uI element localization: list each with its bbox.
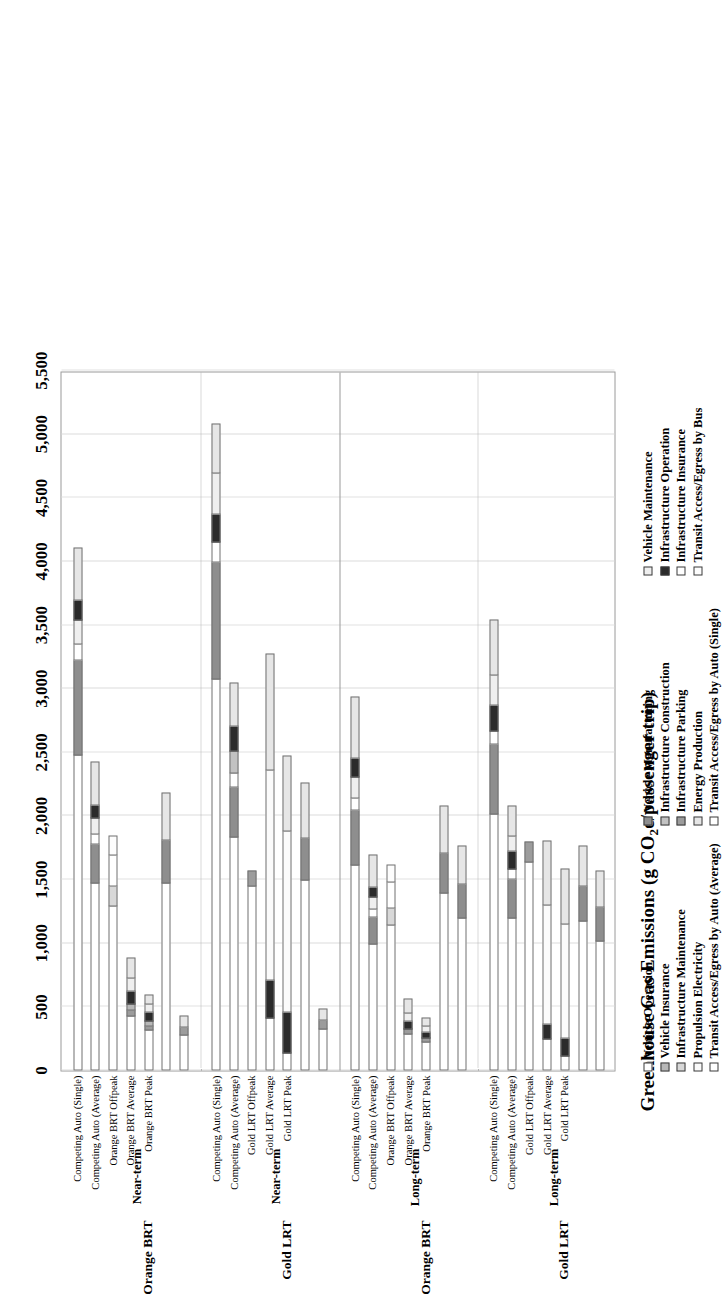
bar xyxy=(300,780,309,1070)
legend-item[interactable]: Vehicle Maintenance xyxy=(640,371,655,575)
bar-segment xyxy=(247,885,256,1070)
gridline xyxy=(61,814,614,815)
x-tick-label: 5,000 xyxy=(31,415,51,453)
legend-swatch-icon xyxy=(693,1062,702,1071)
bar xyxy=(403,994,412,1070)
bar-segment xyxy=(457,846,466,884)
bar-segment xyxy=(161,882,170,1070)
category-label: Orange BRT Peak xyxy=(420,1075,431,1151)
bar-segment xyxy=(542,1023,551,1040)
legend-label: Transit Access/Egress by Auto (Single) xyxy=(706,608,721,812)
legend-item[interactable]: Vehicle Operation xyxy=(640,825,655,1071)
bar xyxy=(144,989,153,1070)
bar-segment xyxy=(90,761,99,806)
legend-label: Infrastructure Insurance xyxy=(673,429,688,562)
bar xyxy=(560,865,569,1070)
bar-segment xyxy=(489,704,498,731)
bar-segment xyxy=(560,868,569,924)
legend-label: Vehicle Insurance xyxy=(657,963,672,1058)
legend-item[interactable]: Transit Access/Egress by Bus xyxy=(690,371,705,575)
bar xyxy=(421,1013,430,1070)
bar xyxy=(282,752,291,1070)
bar-segment xyxy=(211,541,220,561)
x-tick-label: 0 xyxy=(31,1066,51,1075)
bar-segment xyxy=(595,906,604,942)
bar-segment xyxy=(282,755,291,831)
category-label: Orange BRT Offpeak xyxy=(385,1075,396,1165)
bar-segment xyxy=(560,1055,569,1070)
legend-swatch-icon xyxy=(660,1062,669,1071)
bar xyxy=(161,790,170,1070)
group-scenario-label: Gold LRT xyxy=(278,1220,294,1279)
category-label: Gold LRT Peak xyxy=(559,1075,570,1141)
bar-segment xyxy=(386,907,395,925)
x-tick-label: 2,500 xyxy=(31,733,51,771)
legend-label: Energy Production xyxy=(690,710,705,812)
bar-segment xyxy=(318,1019,327,1029)
legend-item[interactable]: Transit Access/Egress by Auto (Single) xyxy=(706,575,721,825)
bar-segment xyxy=(403,998,412,1013)
bar-segment xyxy=(524,841,533,863)
bar-segment xyxy=(386,924,395,1070)
x-tick-label: 4,500 xyxy=(31,478,51,516)
bar-segment xyxy=(507,868,516,878)
legend-item[interactable]: Infrastructure Maintenance xyxy=(673,825,688,1071)
bar-segment xyxy=(403,1033,412,1070)
bar-segment xyxy=(350,777,359,799)
category-label: Gold LRT Average xyxy=(264,1075,275,1154)
bar-segment xyxy=(350,757,359,777)
legend-column: Vehicle OperationVehicle InsuranceInfras… xyxy=(640,825,720,1071)
legend-label: Vehicle Maintenance xyxy=(640,451,655,562)
bar-segment xyxy=(126,990,135,1004)
bar-segment xyxy=(421,1041,430,1070)
bar-segment xyxy=(229,725,238,750)
legend-swatch-icon xyxy=(643,816,652,825)
bar-segment xyxy=(368,916,377,944)
bar-segment xyxy=(108,885,117,905)
bar-segment xyxy=(578,920,587,1070)
bar-segment xyxy=(211,678,220,1070)
x-tick-label: 4,000 xyxy=(31,542,51,580)
bar-segment xyxy=(73,599,82,619)
x-tick-label: 500 xyxy=(31,994,51,1020)
bar-segment xyxy=(73,547,82,600)
bar-segment xyxy=(507,805,516,836)
bar-segment xyxy=(211,472,220,514)
bar-segment xyxy=(386,881,395,908)
bar-segment xyxy=(229,682,238,727)
x-tick-label: 3,500 xyxy=(31,605,51,643)
bar xyxy=(595,868,604,1070)
legend-label: Transit Access/Egress by Bus xyxy=(690,407,705,562)
legend-item[interactable]: Vehicle Insurance xyxy=(657,825,672,1071)
legend-item[interactable]: Infrastructure Insurance xyxy=(673,371,688,575)
bar-segment xyxy=(73,619,82,644)
bar-segment xyxy=(144,1011,153,1022)
legend-swatch-icon xyxy=(643,1062,652,1071)
legend-item[interactable]: Energy Production xyxy=(690,575,705,825)
bar-segment xyxy=(368,896,377,909)
legend-label: Transit Access/Egress by Auto (Average) xyxy=(706,843,721,1058)
category-label: Gold LRT Offpeak xyxy=(246,1075,257,1154)
bar-segment xyxy=(507,917,516,1070)
category-label: Competing Auto (Single) xyxy=(349,1075,360,1181)
legend-item[interactable]: Infrastructure Parking xyxy=(673,575,688,825)
bar-segment xyxy=(247,870,256,887)
bar-segment xyxy=(350,797,359,810)
bar-segment xyxy=(489,743,498,814)
bar-segment xyxy=(229,786,238,837)
legend-label: Infrastructure Maintenance xyxy=(673,909,688,1058)
legend-item[interactable]: Infrastructure Operation xyxy=(657,371,672,575)
bar-segment xyxy=(595,940,604,1070)
group-scenario-label: Orange BRT xyxy=(417,1220,433,1294)
legend-label: Infrastructure Operation xyxy=(657,427,672,562)
category-label: Competing Auto (Single) xyxy=(210,1075,221,1181)
bar-segment xyxy=(457,883,466,919)
legend-item[interactable]: Transit Access/Egress by Auto (Average) xyxy=(706,825,721,1071)
bar-segment xyxy=(542,904,551,1024)
bar-segment xyxy=(126,977,135,991)
legend-item[interactable]: Propulsion Electricity xyxy=(690,825,705,1071)
bar-segment xyxy=(439,805,448,853)
x-tick-label: 3,000 xyxy=(31,669,51,707)
legend-item[interactable]: Infrastructure Construction xyxy=(657,575,672,825)
legend-item[interactable]: Vehicle Manufacturing xyxy=(640,575,655,825)
